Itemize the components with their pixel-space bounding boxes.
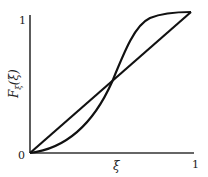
origin-label: 0 [18, 149, 25, 162]
cdf-diagram: 1 0 ξ 1 Fξ(ξ) [0, 0, 208, 177]
svg-text:Fξ(ξ): Fξ(ξ) [7, 69, 23, 99]
x-tick-right-label: 1 [192, 158, 199, 171]
y-axis-label: Fξ(ξ) [7, 69, 23, 99]
y-tick-top-label: 1 [19, 14, 26, 27]
uniform-cdf-line [30, 12, 191, 153]
x-axis-label: ξ [113, 159, 121, 173]
